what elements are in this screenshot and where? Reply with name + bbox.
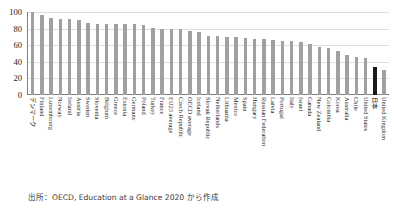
x-tick-label: Canada xyxy=(307,97,313,116)
bar xyxy=(123,24,126,95)
bar xyxy=(133,24,136,95)
x-label-slot: Netherlands xyxy=(213,96,222,182)
bar xyxy=(382,70,385,95)
x-tick-label: Ireland xyxy=(66,97,72,115)
bar xyxy=(234,37,237,95)
y-axis: 020406080100 xyxy=(0,12,25,95)
x-label-slot: Slovak Republic xyxy=(204,96,213,182)
bar-slot xyxy=(84,12,93,95)
x-tick-label: Austria xyxy=(76,97,82,116)
x-label-slot: Slovenia xyxy=(93,96,102,182)
x-label-slot: Hungary xyxy=(250,96,259,182)
x-tick-label: Estonia xyxy=(122,97,128,116)
x-tick-label: Latvia xyxy=(270,97,276,113)
x-tick-label: OECD average xyxy=(187,97,193,136)
y-tick-label-80: 80 xyxy=(14,24,23,33)
bar-slot xyxy=(148,12,157,95)
x-label-slot: Ireland xyxy=(65,96,74,182)
bar xyxy=(179,29,182,95)
bar-slot xyxy=(241,12,250,95)
x-tick-label: Lithuania xyxy=(224,97,230,122)
bar-slot xyxy=(259,12,268,95)
bar-slot xyxy=(343,12,352,95)
bar-slot xyxy=(139,12,148,95)
bar xyxy=(271,40,274,95)
x-label-slot: Latvia xyxy=(269,96,278,182)
bar-slot xyxy=(65,12,74,95)
bar-series xyxy=(28,12,389,95)
bar-slot xyxy=(306,12,315,95)
y-tick-label-100: 100 xyxy=(9,8,22,17)
chart-figure: 020406080100 デンマークFinlandLuxembourgNorwa… xyxy=(0,0,394,215)
bar xyxy=(253,39,256,95)
x-label-slot: Germany xyxy=(130,96,139,182)
bar xyxy=(96,24,99,95)
bar-slot xyxy=(185,12,194,95)
x-label-slot: United Kingdom xyxy=(380,96,389,182)
x-label-slot: Mexico xyxy=(232,96,241,182)
x-label-slot: Norway xyxy=(56,96,65,182)
bar xyxy=(105,24,108,95)
bar xyxy=(345,55,348,95)
bar xyxy=(336,51,339,95)
x-label-slot: Czech Republic xyxy=(176,96,185,182)
bar-slot xyxy=(158,12,167,95)
bar-slot xyxy=(370,12,379,95)
x-label-slot: Lithuania xyxy=(222,96,231,182)
x-tick-label: Mexico xyxy=(233,97,239,117)
y-tick-label-0: 0 xyxy=(18,91,22,100)
bar xyxy=(225,37,228,95)
x-label-slot: Estonia xyxy=(121,96,130,182)
x-tick-label: Germany xyxy=(131,97,137,121)
x-label-slot: Portugal xyxy=(278,96,287,182)
y-tick-label-60: 60 xyxy=(14,41,23,50)
x-label-slot: Belgium xyxy=(102,96,111,182)
x-tick-label: Sweden xyxy=(85,97,91,117)
x-label-slot: Spain xyxy=(241,96,250,182)
bar-slot xyxy=(250,12,259,95)
bar xyxy=(281,41,284,95)
x-label-slot: Canada xyxy=(306,96,315,182)
bar xyxy=(114,24,117,95)
bar xyxy=(355,57,358,95)
x-tick-label: Italy xyxy=(288,97,294,109)
x-label-slot: Russian Federation xyxy=(259,96,268,182)
bar xyxy=(86,23,89,95)
bar xyxy=(160,29,163,95)
bar-slot xyxy=(296,12,305,95)
bar xyxy=(49,18,52,95)
bar-slot xyxy=(380,12,389,95)
bar-slot xyxy=(47,12,56,95)
x-axis-labels: デンマークFinlandLuxembourgNorwayIrelandAustr… xyxy=(28,96,389,182)
x-tick-label: デンマーク xyxy=(29,97,35,127)
x-tick-label: 日本 xyxy=(372,97,378,109)
bar xyxy=(308,44,311,95)
bar xyxy=(197,32,200,95)
bar-slot xyxy=(167,12,176,95)
bar-slot xyxy=(287,12,296,95)
bar xyxy=(31,12,34,95)
bar-slot xyxy=(222,12,231,95)
bar-slot xyxy=(333,12,342,95)
bar-slot xyxy=(111,12,120,95)
x-label-slot: Italy xyxy=(287,96,296,182)
x-label-slot: Finland xyxy=(37,96,46,182)
bar xyxy=(59,19,62,95)
x-tick-label: Finland xyxy=(39,97,45,117)
x-label-slot: United States xyxy=(361,96,370,182)
bar-slot xyxy=(121,12,130,95)
bar-slot xyxy=(93,12,102,95)
x-label-slot: Greece xyxy=(111,96,120,182)
bar xyxy=(207,36,210,95)
bar-slot xyxy=(278,12,287,95)
x-label-slot: EU23 average xyxy=(167,96,176,182)
bar-slot xyxy=(28,12,37,95)
x-tick-label: Iceland xyxy=(196,97,202,116)
x-label-slot: Poland xyxy=(139,96,148,182)
x-tick-label: Turkey xyxy=(150,97,156,115)
x-tick-label: Russian Federation xyxy=(261,97,267,146)
x-tick-label: Netherlands xyxy=(214,97,220,128)
bar xyxy=(290,41,293,95)
x-label-slot: Chile xyxy=(352,96,361,182)
bar xyxy=(244,38,247,95)
